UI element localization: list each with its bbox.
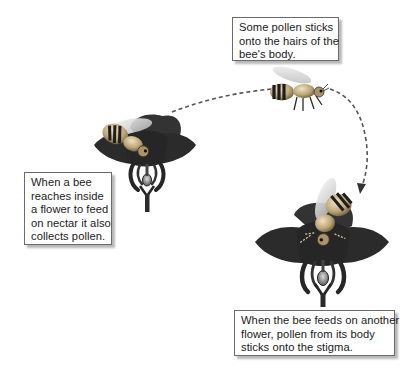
label-line: flower, pollen from its body bbox=[241, 328, 389, 342]
label-line: bee's body. bbox=[239, 48, 333, 62]
label-line: onto the hairs of the bbox=[239, 35, 333, 49]
label-line: Some pollen sticks bbox=[239, 21, 333, 35]
label-line: sticks onto the stigma. bbox=[241, 341, 389, 355]
bee-flying bbox=[270, 63, 329, 111]
label-pollen-sticks-to-hairs: Some pollen sticks onto the hairs of the… bbox=[232, 17, 339, 61]
label-line: reaches inside bbox=[31, 190, 106, 204]
arrowhead-icon bbox=[357, 183, 366, 194]
label-pollen-on-stigma: When the bee feeds on another flower, po… bbox=[234, 310, 395, 356]
dashed-path-bee-to-flower bbox=[330, 89, 367, 186]
label-line: When the bee feeds on another bbox=[241, 314, 389, 328]
label-line: When a bee bbox=[31, 176, 106, 190]
label-line: on nectar it also bbox=[31, 217, 106, 231]
label-bee-collects-pollen: When a bee reaches inside a flower to fe… bbox=[24, 172, 112, 245]
diagram-canvas: Some pollen sticks onto the hairs of the… bbox=[0, 0, 412, 372]
label-line: a flower to feed bbox=[31, 203, 106, 217]
dashed-path-flower-to-bee bbox=[172, 89, 272, 112]
label-line: collects pollen. bbox=[31, 230, 106, 244]
